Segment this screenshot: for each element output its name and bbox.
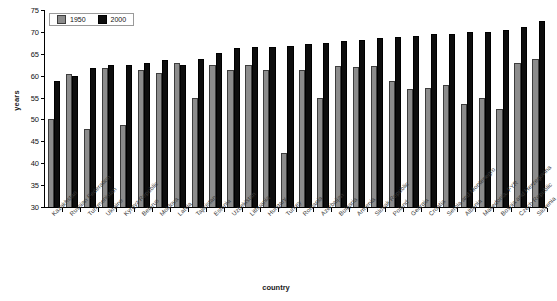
bar-group [514, 11, 526, 207]
bar-group [84, 11, 96, 207]
bar-group [443, 11, 455, 207]
bar-2000 [162, 60, 168, 207]
bar-2000 [359, 40, 365, 207]
x-axis-title: country [0, 283, 552, 292]
legend-swatch-1950-icon [57, 15, 66, 24]
bar-2000 [431, 34, 437, 207]
bar-2000 [449, 34, 455, 207]
bar-group [371, 11, 383, 207]
legend-swatch-2000-icon [98, 15, 107, 24]
legend-item-2000: 2000 [98, 15, 127, 24]
bar-2000 [216, 53, 222, 207]
bar-group [138, 11, 150, 207]
bar-2000 [323, 43, 329, 207]
bar-group [227, 11, 239, 207]
bar-2000 [305, 44, 311, 207]
bar-group [461, 11, 473, 207]
bar-group [66, 11, 78, 207]
bar-2000 [126, 65, 132, 207]
bar-group [245, 11, 257, 207]
bar-group [281, 11, 293, 207]
bar-group [263, 11, 275, 207]
bar-2000 [72, 76, 78, 207]
bar-group [407, 11, 419, 207]
bar-2000 [521, 27, 527, 207]
y-tick-label: 30 [19, 203, 39, 212]
y-tick-label: 50 [19, 115, 39, 124]
bar-2000 [234, 48, 240, 207]
y-tick-label: 65 [19, 49, 39, 58]
legend-label-1950: 1950 [70, 16, 86, 23]
y-tick-label: 70 [19, 27, 39, 36]
legend-item-1950: 1950 [57, 15, 86, 24]
bar-group [353, 11, 365, 207]
bar-2000 [198, 59, 204, 207]
y-tick-label: 55 [19, 93, 39, 102]
bar-group [209, 11, 221, 207]
bar-2000 [377, 38, 383, 207]
y-tick-label: 40 [19, 159, 39, 168]
bar-2000 [341, 41, 347, 207]
bar-group [389, 11, 401, 207]
bar-group [317, 11, 329, 207]
y-tick-label: 35 [19, 181, 39, 190]
y-tick-label: 75 [19, 6, 39, 15]
y-tick-label: 60 [19, 71, 39, 80]
bar-group [192, 11, 204, 207]
bar-2000 [413, 36, 419, 207]
bar-2000 [287, 46, 293, 207]
bar-2000 [54, 81, 60, 207]
bar-group [174, 11, 186, 207]
bar-2000 [503, 30, 509, 207]
bar-group [496, 11, 508, 207]
y-tick-label: 45 [19, 137, 39, 146]
bar-2000 [467, 32, 473, 207]
x-axis-labels: KazakhstanRussian FederationTurkmenistan… [44, 212, 547, 282]
bar-2000 [180, 65, 186, 207]
chart-legend: 1950 2000 [49, 13, 134, 26]
bar-groups [45, 11, 547, 207]
bar-group [156, 11, 168, 207]
bar-2000 [269, 47, 275, 207]
bar-2000 [395, 37, 401, 207]
bar-2000 [252, 47, 258, 207]
bar-group [48, 11, 60, 207]
bar-group [425, 11, 437, 207]
bar-group [299, 11, 311, 207]
bar-group [120, 11, 132, 207]
plot-area: 30354045505560657075 [44, 11, 547, 208]
legend-label-2000: 2000 [111, 16, 127, 23]
bar-group [335, 11, 347, 207]
